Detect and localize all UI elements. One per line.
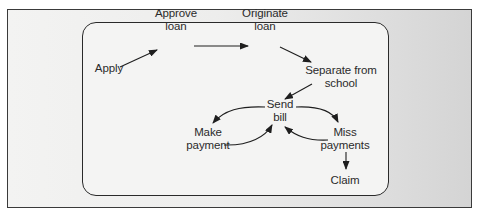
node-label: school [305,77,377,90]
node-claim: Claim [331,174,360,187]
node-originate-loan: Originate loan [242,7,288,33]
node-label: Apply [95,62,123,75]
node-miss-payments: Miss payments [320,126,369,152]
arrow-apply-to-approve [120,50,157,67]
node-label: Send [267,98,293,111]
node-label: Make [186,126,229,139]
node-label: Miss [320,126,369,139]
arrow-make-to-send [224,125,272,145]
node-label: loan [242,20,288,33]
node-send-bill: Send bill [267,98,293,124]
node-label: payments [320,139,369,152]
node-approve-loan: Approve loan [155,7,197,33]
node-label: bill [267,111,293,124]
node-separate-from-school: Separate from school [305,64,377,90]
arrow-send-to-miss [296,107,338,122]
node-label: Separate from [305,64,377,77]
node-label: payment [186,139,229,152]
node-label: Originate [242,7,288,20]
arrow-originate-to-separate [280,47,311,62]
node-label: Approve [155,7,197,20]
node-label: loan [155,20,197,33]
flow-arrows [0,0,481,218]
node-make-payment: Make payment [186,126,229,152]
arrow-send-to-make [213,107,265,123]
node-label: Claim [331,174,360,187]
node-apply: Apply [95,62,123,75]
